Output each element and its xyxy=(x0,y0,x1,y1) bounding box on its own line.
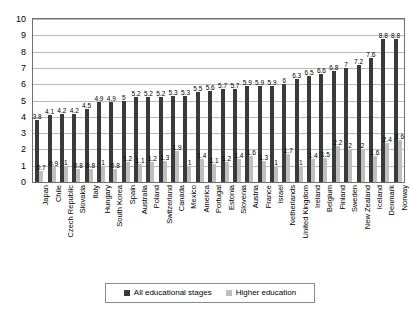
bar-group: 5.21.2 xyxy=(144,19,156,182)
bar-value-label: 1.5 xyxy=(321,151,330,158)
bar-higher: 1.4 xyxy=(200,159,204,182)
bar-higher: 0.8 xyxy=(76,169,80,182)
y-axis-tick: 10 xyxy=(16,15,26,24)
bar-value-label: 5 xyxy=(122,94,126,101)
bar-value-label: 3.8 xyxy=(33,113,42,120)
x-axis-label-cell: Netherlands xyxy=(280,185,292,273)
bar-value-label: 2.2 xyxy=(333,139,342,146)
x-axis-label-cell: South Korea xyxy=(107,185,119,273)
bar-chart: 109876543210 3.80.74.10.94.214.20.84.50.… xyxy=(0,0,411,313)
bar-value-label: 2.4 xyxy=(383,136,392,143)
bar-value-label: 5.9 xyxy=(267,79,276,86)
bar-group: 8.82.4 xyxy=(379,19,391,182)
bar-group: 3.80.7 xyxy=(33,19,45,182)
y-axis-tick: 1 xyxy=(21,161,26,170)
x-axis-label-cell: Japan xyxy=(33,185,45,273)
bar-higher: 2 xyxy=(361,149,365,182)
bar-group: 5.71.2 xyxy=(218,19,230,182)
bar-higher: 2.6 xyxy=(398,140,402,182)
bar-value-label: 0.9 xyxy=(49,160,58,167)
y-axis: 109876543210 xyxy=(0,18,30,184)
x-axis-label-cell: Poland xyxy=(144,185,156,273)
x-axis-label-cell: America xyxy=(194,185,206,273)
x-axis-label-cell: New Zealand xyxy=(354,185,366,273)
legend-swatch-icon xyxy=(226,290,232,296)
x-axis-label-cell: Iceland xyxy=(367,185,379,273)
bar-group: 5.71.4 xyxy=(231,19,243,182)
bar-group: 4.91 xyxy=(95,19,107,182)
bar-group: 4.20.8 xyxy=(70,19,82,182)
bar-value-label: 1.2 xyxy=(123,155,132,162)
bar-higher: 1.1 xyxy=(138,164,142,182)
bar-value-label: 1.3 xyxy=(160,154,169,161)
y-axis-tick: 6 xyxy=(21,80,26,89)
bar-value-label: 1.3 xyxy=(259,154,268,161)
bar-group: 6.82.2 xyxy=(330,19,342,182)
bar-group: 4.10.9 xyxy=(45,19,57,182)
bar-value-label: 5.6 xyxy=(206,84,215,91)
bar-higher: 2 xyxy=(348,149,352,182)
bar-value-label: 5.7 xyxy=(230,82,239,89)
x-axis-label-cell: Mexico xyxy=(181,185,193,273)
chart-legend: All educational stagesHigher education xyxy=(105,283,315,303)
bar-value-label: 1.6 xyxy=(370,149,379,156)
bar-value-label: 1.2 xyxy=(148,155,157,162)
y-axis-tick: 8 xyxy=(21,47,26,56)
bar-value-label: 0.8 xyxy=(74,162,83,169)
bar-higher: 1.2 xyxy=(150,162,154,182)
bar-value-label: 1.4 xyxy=(309,152,318,159)
bar-group: 5.91.6 xyxy=(243,19,255,182)
x-axis-label-cell: Australia xyxy=(132,185,144,273)
bar-group: 4.90.8 xyxy=(107,19,119,182)
x-axis-label-cell: Switzerland xyxy=(157,185,169,273)
legend-item[interactable]: All educational stages xyxy=(124,289,212,297)
bar-higher: 1.2 xyxy=(126,162,130,182)
x-axis-label-cell: Norway xyxy=(391,185,403,273)
bar-higher: 1.7 xyxy=(286,154,290,182)
y-axis-tick: 2 xyxy=(21,145,26,154)
bar-higher: 1.2 xyxy=(225,162,229,182)
x-axis-label-cell: Slovenia xyxy=(231,185,243,273)
y-axis-tick: 9 xyxy=(21,31,26,40)
x-axis-label-cell: Sweden xyxy=(342,185,354,273)
legend-label: Higher education xyxy=(236,289,296,297)
bar-value-label: 5.2 xyxy=(156,90,165,97)
bar-value-label: 0.8 xyxy=(111,162,120,169)
bar-value-label: 6.3 xyxy=(292,72,301,79)
bar-value-label: 4.2 xyxy=(70,107,79,114)
bar-higher: 0.8 xyxy=(113,169,117,182)
bar-value-label: 4.1 xyxy=(45,108,54,115)
x-axis-label-cell: Finland xyxy=(330,185,342,273)
bar-value-label: 7.6 xyxy=(366,51,375,58)
x-axis-label-cell: Chile xyxy=(45,185,57,273)
bar-value-label: 6 xyxy=(283,77,287,84)
bar-higher: 0.7 xyxy=(39,171,43,182)
bar-value-label: 5.2 xyxy=(144,90,153,97)
bar-group: 5.21.1 xyxy=(132,19,144,182)
x-axis-label-cell: Slovakia xyxy=(70,185,82,273)
bar-value-label: 5.5 xyxy=(193,85,202,92)
bar-higher: 1.9 xyxy=(175,151,179,182)
bar-higher: 1.4 xyxy=(237,159,241,182)
x-axis-label-cell: United Kingdom xyxy=(293,185,305,273)
bar-value-label: 7 xyxy=(344,61,348,68)
y-axis-tick: 5 xyxy=(21,96,26,105)
y-axis-tick: 7 xyxy=(21,63,26,72)
bar-higher: 0.9 xyxy=(52,167,56,182)
bar-group: 4.50.8 xyxy=(82,19,94,182)
bar-higher: 1.4 xyxy=(311,159,315,182)
bar-value-label: 4.2 xyxy=(57,107,66,114)
bar-value-label: 1.1 xyxy=(136,157,145,164)
bar-value-label: 1.6 xyxy=(247,149,256,156)
legend-item[interactable]: Higher education xyxy=(226,289,296,297)
x-axis-label-cell: Czech Republic xyxy=(58,185,70,273)
bars-container: 3.80.74.10.94.214.20.84.50.84.914.90.851… xyxy=(33,19,404,182)
x-axis-label-cell: Hungary xyxy=(95,185,107,273)
bar-value-label: 4.9 xyxy=(107,95,116,102)
bar-value-label: 5.2 xyxy=(132,90,141,97)
bar-group: 61.7 xyxy=(280,19,292,182)
bar-value-label: 1 xyxy=(101,159,105,166)
bar-value-label: 4.9 xyxy=(94,95,103,102)
bar-higher: 1 xyxy=(299,166,303,182)
bar-group: 5.61.1 xyxy=(206,19,218,182)
